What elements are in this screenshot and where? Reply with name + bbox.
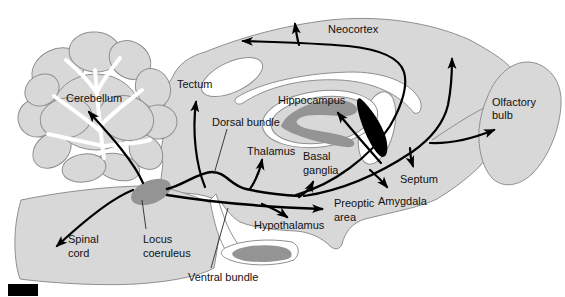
label-amygdala: Amygdala (378, 195, 428, 207)
label-locus-coeruleus: Locus (143, 233, 173, 245)
label-tectum: Tectum (177, 78, 212, 90)
figure-corner-marker (8, 284, 38, 296)
label-thalamus: Thalamus (247, 145, 296, 157)
label-preoptic-area: Preoptic (334, 197, 375, 209)
label-cerebellum: Cerebellum (66, 92, 122, 104)
label-locus-coeruleus: coeruleus (143, 247, 191, 259)
label-spinal-cord: Spinal (68, 233, 99, 245)
label-ventral-bundle: Ventral bundle (188, 271, 258, 283)
label-septum: Septum (400, 173, 438, 185)
label-neocortex: Neocortex (328, 23, 379, 35)
label-olfactory-bulb: bulb (492, 109, 513, 121)
label-olfactory-bulb: Olfactory (492, 96, 537, 108)
label-basal-ganglia: ganglia (303, 164, 339, 176)
label-basal-ganglia: Basal (303, 150, 331, 162)
brainstem-spinal-shape (15, 186, 221, 285)
label-spinal-cord: cord (68, 247, 89, 259)
label-hypothalamus: Hypothalamus (254, 219, 325, 231)
label-preoptic-area: area (334, 211, 357, 223)
brain-pathway-figure: Neocortex Cerebellum Tectum Hippocampus … (0, 0, 565, 297)
label-hippocampus: Hippocampus (278, 94, 346, 106)
label-dorsal-bundle: Dorsal bundle (212, 116, 280, 128)
cerebellum-shape (13, 30, 179, 185)
